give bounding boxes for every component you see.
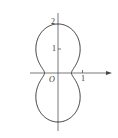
polar-diagram xyxy=(0,0,118,138)
y-tick-label-1: 1 xyxy=(52,45,56,53)
y-tick-label-2: 2 xyxy=(51,18,55,26)
origin-label: O xyxy=(49,76,55,84)
x-tick-label-1: 1 xyxy=(81,75,85,83)
x-axis-arrow-icon xyxy=(106,71,112,75)
